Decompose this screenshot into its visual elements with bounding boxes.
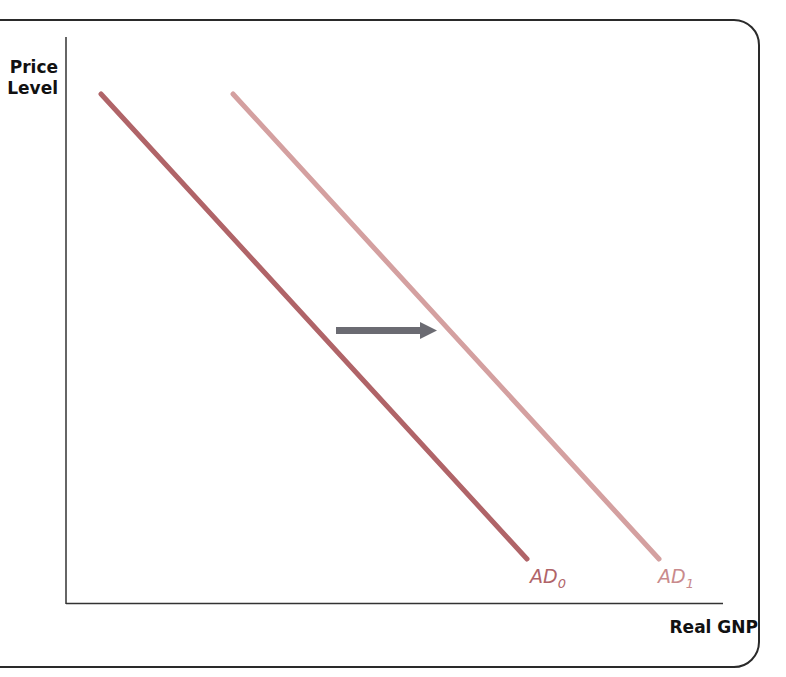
y-label-line1: Price xyxy=(4,57,58,78)
right-arrow-icon xyxy=(336,322,437,339)
ad1-label: AD1 xyxy=(658,565,694,591)
ad1-curve xyxy=(233,94,659,559)
x-axis-label: Real GNP xyxy=(670,617,758,637)
y-label-line2: Level xyxy=(4,78,58,99)
y-axis-label: Price Level xyxy=(4,57,58,99)
ad0-label: AD0 xyxy=(530,565,566,591)
ad0-curve xyxy=(101,94,527,559)
